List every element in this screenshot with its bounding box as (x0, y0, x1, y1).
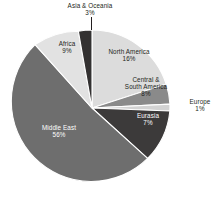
slice-label-africa: Africa 9% (37, 40, 97, 54)
slice-label-name: North America (98, 48, 160, 55)
slice-label-percent: 8% (116, 90, 176, 97)
slice-label-percent: 7% (122, 119, 174, 126)
slice-label-name: Africa (37, 40, 97, 47)
slice-label-name: Middle East (28, 124, 90, 131)
slice-label-central-south-america: Central & South America 8% (116, 76, 176, 97)
slice-label-percent: 16% (98, 55, 160, 62)
slice-label-percent: 9% (37, 47, 97, 54)
slice-label-percent: 1% (182, 105, 218, 112)
slice-label-percent: 56% (28, 131, 90, 138)
slice-label-europe: Europe 1% (182, 98, 218, 112)
slice-label-name: Eurasia (122, 112, 174, 119)
leader-line-asia-oceania (91, 17, 92, 30)
slice-label-name: Central & South America (116, 76, 176, 90)
pie-chart: Asia & Oceania 3% Africa 9% North Americ… (0, 0, 218, 210)
slice-label-name: Asia & Oceania (47, 2, 133, 9)
slice-label-percent: 3% (47, 9, 133, 16)
slice-label-asia-oceania: Asia & Oceania 3% (47, 2, 133, 16)
slice-label-north-america: North America 16% (98, 48, 160, 62)
slice-label-middle-east: Middle East 56% (28, 124, 90, 138)
slice-label-name: Europe (182, 98, 218, 105)
slice-label-eurasia: Eurasia 7% (122, 112, 174, 126)
